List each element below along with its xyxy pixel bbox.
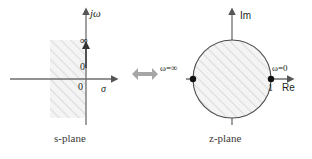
s-plane-infinity-label: ∞	[80, 35, 88, 46]
z-plane-omega-zero-label: ω=0	[272, 64, 288, 73]
marker-omega-infinity	[190, 76, 196, 82]
s-plane-inner-zero-label: 0	[80, 62, 85, 72]
z-plane-caption: z-plane	[209, 133, 241, 144]
figure-canvas	[0, 0, 312, 159]
s-plane-caption: s-plane	[54, 133, 86, 144]
s-plane-imag-axis-label: jω	[90, 8, 101, 19]
s-plane-to-z-plane-figure: jω ∞ 0 0 σ s-plane Im ω=∞ ω=0 1 Re z-pla…	[0, 0, 312, 159]
z-plane-real-axis-label: Re	[282, 83, 295, 93]
double-headed-arrow-icon	[132, 68, 158, 80]
s-plane-real-axis-label: σ	[101, 84, 106, 94]
z-plane-unit-label: 1	[268, 83, 273, 93]
z-plane-unit-circle	[193, 40, 271, 118]
z-plane-imag-axis-label: Im	[240, 11, 251, 21]
s-plane-group	[10, 14, 112, 125]
s-plane-origin-label: 0	[78, 82, 83, 92]
z-plane-omega-infinity-label: ω=∞	[160, 64, 177, 73]
